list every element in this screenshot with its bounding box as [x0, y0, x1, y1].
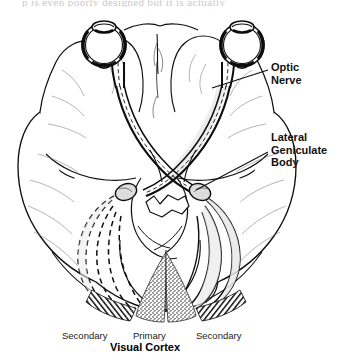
- label-primary-visual-cortex: Primary: [133, 330, 166, 341]
- label-secondary-visual-cortex-right: Secondary: [196, 330, 241, 341]
- label-secondary-visual-cortex-left: Secondary: [62, 330, 107, 341]
- callout-lateral-geniculate-body: Lateral Geniculate Body: [271, 131, 327, 169]
- eyeball-right: [220, 21, 264, 68]
- brain-visual-pathway-diagram: [0, 0, 349, 362]
- label-visual-cortex-title: Visual Cortex: [110, 341, 180, 353]
- figure-canvas: p is even poorly designed but it is actu…: [0, 0, 349, 362]
- callout-optic-nerve: Optic Nerve: [271, 61, 302, 86]
- eyeball-left: [82, 21, 126, 68]
